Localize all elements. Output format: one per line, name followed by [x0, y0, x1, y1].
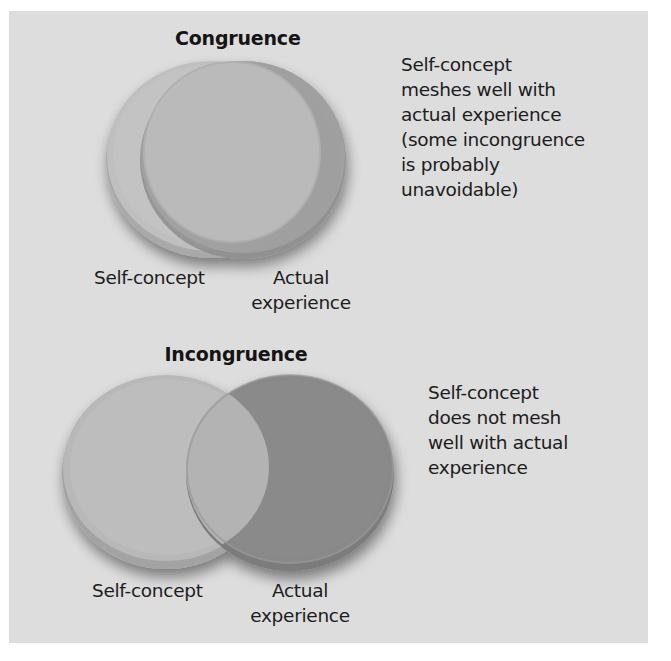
congruence-title: Congruence [175, 27, 295, 49]
congruence-actual-label: Actual [246, 265, 356, 290]
incongruence-description-line: Self-concept [428, 380, 568, 405]
congruence-self-concept-label: Self-concept [94, 265, 205, 290]
congruence-description-line: (some incongruence [401, 127, 585, 152]
congruence-description: Self-concept meshes well with actual exp… [401, 52, 585, 202]
congruence-description-line: meshes well with [401, 77, 585, 102]
incongruence-actual-label: Actual [245, 578, 355, 603]
incongruence-description-line: well with actual [428, 430, 568, 455]
incongruence-venn [62, 375, 394, 571]
incongruence-description-line: experience [428, 455, 568, 480]
incongruence-experience-label: experience [245, 603, 355, 628]
congruence-venn [106, 61, 346, 259]
incongruence-title: Incongruence [160, 343, 312, 365]
incongruence-description-line: does not mesh [428, 405, 568, 430]
congruence-description-line: actual experience [401, 102, 585, 127]
congruence-experience-label: experience [246, 290, 356, 315]
congruence-description-line: unavoidable) [401, 177, 585, 202]
incongruence-description: Self-concept does not mesh well with act… [428, 380, 568, 480]
congruence-description-line: Self-concept [401, 52, 585, 77]
incongruence-self-concept-label: Self-concept [92, 578, 203, 603]
congruence-description-line: is probably [401, 152, 585, 177]
